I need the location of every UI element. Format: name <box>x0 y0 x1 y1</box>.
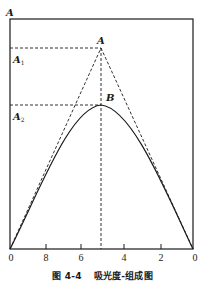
x-tick-label: 8 <box>44 252 49 263</box>
x-axis-ticks <box>46 244 161 249</box>
x-tick-label: 4 <box>122 252 127 263</box>
peak-a-label: A <box>96 35 105 46</box>
a1-label: A1 <box>12 54 25 66</box>
a2-label: A2 <box>12 111 25 123</box>
figure-caption: 图 4-4吸光度-组成图 <box>0 269 205 282</box>
figure-number: 图 4-4 <box>52 271 81 281</box>
x-tick-label: 6 <box>79 252 84 263</box>
absorbance-curve <box>10 105 193 249</box>
peak-b-label: B <box>105 92 114 103</box>
y-axis-label: A <box>5 7 14 18</box>
figure-title: 吸光度-组成图 <box>94 271 153 281</box>
x-tick-label: 2 <box>159 252 164 263</box>
left-tangent-dashed-line <box>10 48 101 249</box>
absorbance-composition-chart: A A B A1 A2 0 8 6 4 2 0 <box>0 0 205 286</box>
x-tick-label: 0 <box>193 252 198 263</box>
x-tick-label: 0 <box>9 252 14 263</box>
plot-frame <box>10 19 193 249</box>
